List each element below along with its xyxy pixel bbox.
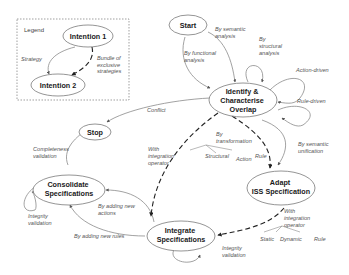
label-completeness-validation: Completeness validation (33, 146, 70, 159)
edge-integration-operator-2 (218, 208, 284, 235)
node-identify-characterise-overlap[interactable]: Identify & Characterise Overlap (209, 83, 277, 117)
label-structural-analysis: By structural analysis (259, 36, 284, 56)
label-action-driven: Action-driven (295, 67, 329, 73)
legend-box: Legend Intention 1 Intention 2 Strategy … (17, 19, 129, 100)
label-integration-operator-1: With integration operator (148, 146, 176, 166)
label-semantic-unification: By semantic unification (298, 141, 330, 154)
label-rule-driven: Rule-driven (297, 98, 326, 104)
legend-intention-2: Intention 2 (31, 74, 85, 96)
node-adapt-iss-specification[interactable]: Adapt ISS Specification (247, 171, 315, 205)
edge-structural-loop (246, 66, 263, 83)
label-integration-operator-2: With integration operator (284, 208, 312, 228)
svg-text:Consolidate Specificatio: Consolidate Specifications (45, 180, 94, 198)
label-by-transformation: By transformation (216, 131, 252, 144)
node-integrate-specifications[interactable]: Integrate Specifications (147, 221, 215, 251)
label-integrity-consolidate: Integrity validation (28, 213, 52, 226)
transformation-branches (190, 145, 232, 153)
legend-intention-1: Intention 1 (63, 25, 113, 47)
node-stop[interactable]: Stop (79, 124, 111, 140)
label-adding-rules: By adding new rules (74, 233, 125, 239)
legend-title: Legend (24, 27, 44, 33)
svg-text:Intention 2: Intention 2 (40, 81, 76, 90)
node-start[interactable]: Start (169, 15, 207, 35)
label-functional-analysis: By functional analysis (184, 50, 218, 63)
label-transformation-options: Structural Action Rule (205, 153, 267, 162)
svg-text:Intention 1: Intention 1 (70, 32, 106, 41)
legend-bundle-label: Bundle of exclusive strategies (97, 55, 122, 74)
label-conflict: Conflict (147, 107, 166, 113)
legend-bundle-arrow (72, 47, 93, 75)
label-integrity-integrate: Integrity validation (222, 245, 246, 258)
label-semantic-analysis: By semantic analysis (215, 26, 247, 39)
svg-text:Stop: Stop (87, 128, 104, 137)
edge-semantic-analysis (208, 32, 235, 82)
legend-strategy-arrow (48, 47, 75, 74)
intention-strategy-map: Legend Intention 1 Intention 2 Strategy … (0, 0, 349, 275)
legend-strategy-label: Strategy (21, 56, 43, 62)
edge-rule-driven-loop (278, 106, 310, 126)
svg-text:Start: Start (180, 21, 197, 30)
label-adding-actions: By adding new actions (98, 203, 136, 216)
label-operator-options: Static Dynamic Rule (260, 236, 326, 242)
node-consolidate-specifications[interactable]: Consolidate Specifications (33, 175, 105, 205)
